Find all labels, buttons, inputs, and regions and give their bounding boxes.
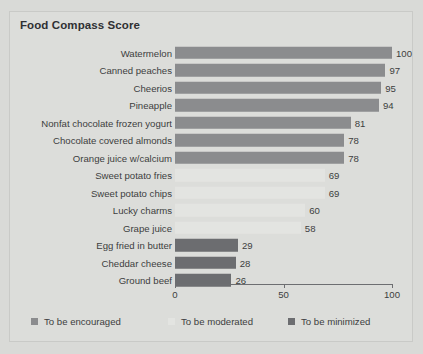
bar-value-label: 28 <box>240 257 251 268</box>
bar-value-label: 29 <box>242 240 253 251</box>
bar[interactable] <box>175 64 385 77</box>
bar-category-label: Canned peaches <box>99 65 172 76</box>
bar-value-label: 69 <box>329 187 340 198</box>
bar-category-label: Cheerios <box>134 82 172 93</box>
bar-category-label: Orange juice w/calcium <box>73 152 172 163</box>
bar-row: Nonfat chocolate frozen yogurt81 <box>0 114 423 132</box>
x-axis-tick-label: 100 <box>384 289 400 300</box>
bar-value-label: 78 <box>348 135 359 146</box>
bar-row: Grape juice58 <box>0 219 423 237</box>
legend-swatch-icon <box>168 318 175 325</box>
x-axis-tick-label: 0 <box>172 289 177 300</box>
bar-value-label: 95 <box>385 82 396 93</box>
bar-value-label: 81 <box>355 117 366 128</box>
bar-category-label: Grape juice <box>123 222 172 233</box>
bar-row: Orange juice w/calcium78 <box>0 149 423 167</box>
bar[interactable] <box>175 117 351 130</box>
bar-category-label: Pineapple <box>129 100 172 111</box>
bar[interactable] <box>175 222 301 235</box>
bar-category-label: Cheddar cheese <box>102 257 172 268</box>
legend-label: To be minimized <box>301 316 370 327</box>
bar-category-label: Nonfat chocolate frozen yogurt <box>41 117 172 128</box>
bar[interactable] <box>175 47 392 60</box>
legend-label: To be moderated <box>181 316 253 327</box>
bar[interactable] <box>175 152 344 165</box>
bar-row: Lucky charms60 <box>0 202 423 220</box>
chart-legend: To be encouragedTo be moderatedTo be min… <box>0 316 423 338</box>
x-axis-tick-label: 50 <box>278 289 289 300</box>
bar-value-label: 60 <box>309 205 320 216</box>
bar-category-label: Lucky charms <box>113 205 172 216</box>
legend-item[interactable]: To be minimized <box>288 316 370 327</box>
bar-row: Canned peaches97 <box>0 62 423 80</box>
bar-category-label: Chocolate covered almonds <box>53 135 172 146</box>
bar-row: Sweet potato chips69 <box>0 184 423 202</box>
bar-row: Chocolate covered almonds78 <box>0 132 423 150</box>
chart-card: Food Compass Score Watermelon100Canned p… <box>0 0 423 354</box>
legend-label: To be encouraged <box>44 316 121 327</box>
bar-value-label: 58 <box>305 222 316 233</box>
bar-row: Egg fried in butter29 <box>0 237 423 255</box>
bar-row: Watermelon100 <box>0 44 423 62</box>
bar[interactable] <box>175 187 325 200</box>
bar-category-label: Watermelon <box>121 47 172 58</box>
bar[interactable] <box>175 204 305 217</box>
bar-category-label: Egg fried in butter <box>96 240 172 251</box>
bar-row: Cheerios95 <box>0 79 423 97</box>
bar-category-label: Sweet potato chips <box>91 187 172 198</box>
bar-row: Pineapple94 <box>0 97 423 115</box>
bar[interactable] <box>175 239 238 252</box>
bar-row: Sweet potato fries69 <box>0 167 423 185</box>
legend-item[interactable]: To be moderated <box>168 316 253 327</box>
bar-row: Cheddar cheese28 <box>0 254 423 272</box>
bar[interactable] <box>175 169 325 182</box>
legend-item[interactable]: To be encouraged <box>31 316 121 327</box>
bar-row: Ground beef26 <box>0 272 423 290</box>
bar-value-label: 78 <box>348 152 359 163</box>
legend-swatch-icon <box>31 318 38 325</box>
bar-value-label: 69 <box>329 170 340 181</box>
bar[interactable] <box>175 257 236 270</box>
x-axis-tick <box>175 284 176 288</box>
bar-value-label: 97 <box>389 65 400 76</box>
legend-swatch-icon <box>288 318 295 325</box>
bar-category-label: Ground beef <box>119 275 172 286</box>
bar-value-label: 94 <box>383 100 394 111</box>
x-axis-tick <box>284 284 285 288</box>
bar[interactable] <box>175 134 344 147</box>
bar-value-label: 100 <box>396 47 412 58</box>
bar-chart-plot-area: Watermelon100Canned peaches97Cheerios95P… <box>0 0 423 354</box>
bar-category-label: Sweet potato fries <box>95 170 172 181</box>
bar[interactable] <box>175 99 379 112</box>
x-axis-tick <box>392 284 393 288</box>
bar[interactable] <box>175 82 381 95</box>
